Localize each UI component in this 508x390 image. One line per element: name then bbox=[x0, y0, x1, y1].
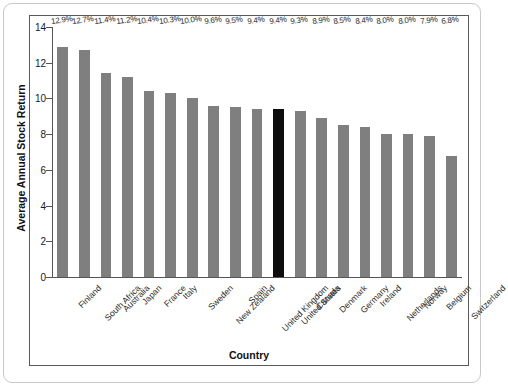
y-axis-tick bbox=[46, 134, 52, 135]
y-axis-title: Average Annual Stock Return bbox=[15, 53, 27, 263]
category-label: Sweden bbox=[206, 283, 235, 312]
y-axis-tick-label: 0 bbox=[6, 272, 46, 283]
y-axis-tick bbox=[46, 241, 52, 242]
x-axis-title: Country bbox=[29, 349, 469, 361]
y-axis-tick bbox=[46, 277, 52, 278]
y-axis-tick bbox=[46, 98, 52, 99]
x-axis-category-labels: FinlandSouth AfricaAustraliaJapanFranceI… bbox=[52, 0, 462, 390]
y-axis-tick bbox=[46, 27, 52, 28]
y-axis-tick bbox=[46, 63, 52, 64]
category-label: Finland bbox=[76, 283, 103, 310]
y-axis-tick-label: 14 bbox=[6, 22, 46, 33]
y-axis-tick bbox=[46, 170, 52, 171]
y-axis-tick bbox=[46, 206, 52, 207]
